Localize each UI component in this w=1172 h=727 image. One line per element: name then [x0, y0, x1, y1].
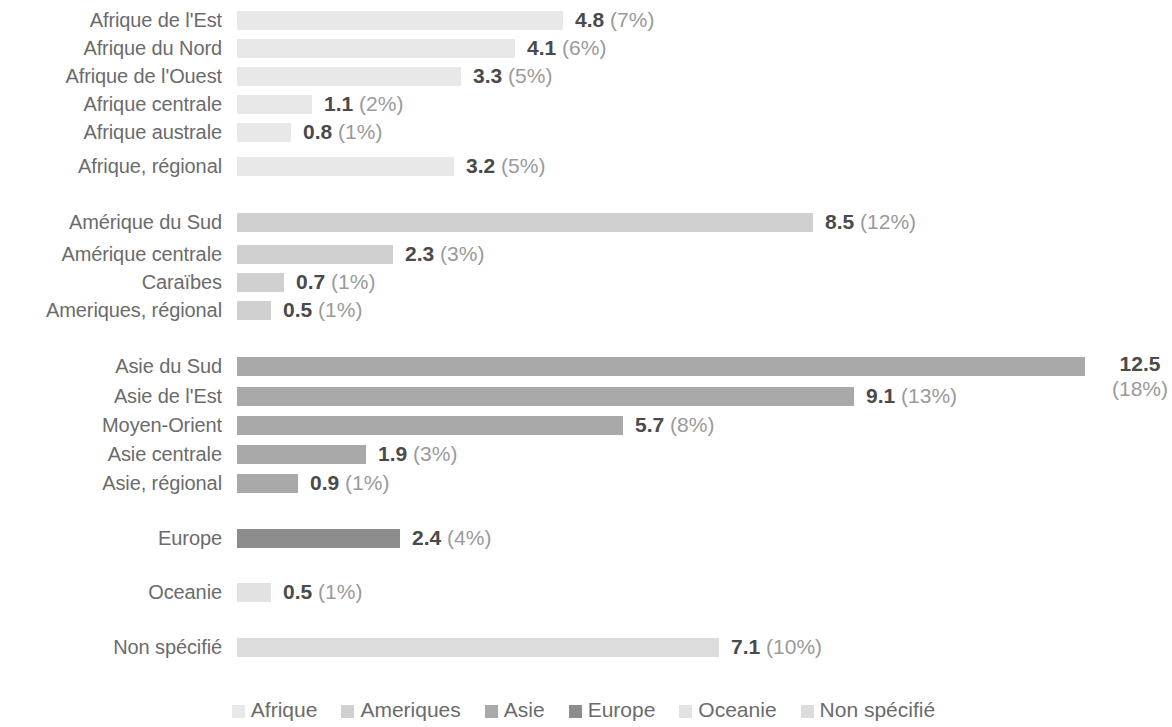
bar	[237, 67, 461, 86]
bar-value-number: 0.8	[303, 120, 332, 143]
legend-swatch-icon	[569, 705, 582, 718]
legend-item[interactable]: Non spécifié	[801, 698, 936, 722]
bar-value-number: 4.1	[527, 36, 556, 59]
bar-value-percent: (10%)	[766, 635, 822, 658]
bar-value-number: 3.3	[473, 64, 502, 87]
bar-row-label: Ameriques, régional	[0, 296, 222, 324]
bar-row-label: Afrique australe	[0, 118, 222, 146]
bar-value-number: 0.5	[283, 580, 312, 603]
bar	[237, 583, 271, 602]
bar-wrapper	[237, 67, 461, 86]
bar-value-label: 9.1 (13%)	[866, 382, 957, 410]
bar-row-label: Amérique centrale	[0, 240, 222, 268]
bar-wrapper	[237, 357, 1085, 376]
bar-value-label: 0.8 (1%)	[303, 118, 382, 146]
legend-item[interactable]: Afrique	[232, 698, 318, 722]
bar	[237, 301, 271, 320]
bar-row: Ameriques, régional0.5 (1%)	[0, 296, 1167, 324]
bar-row-label: Asie du Sud	[0, 352, 222, 380]
legend-item-label: Oceanie	[698, 698, 776, 722]
bar-row-label: Afrique du Nord	[0, 34, 222, 62]
bar-wrapper	[237, 157, 454, 176]
bar-row: Afrique de l'Est4.8 (7%)	[0, 6, 1167, 34]
bar-value-label: 1.9 (3%)	[378, 440, 457, 468]
bar-row: Asie du Sud12.5(18%)	[0, 352, 1167, 380]
bar-value-percent: (1%)	[318, 298, 362, 321]
bar-wrapper	[237, 123, 291, 142]
legend-item[interactable]: Ameriques	[341, 698, 460, 722]
bar-wrapper	[237, 474, 298, 493]
bar-value-percent: (1%)	[331, 270, 375, 293]
bar-wrapper	[237, 213, 813, 232]
bar-row: Asie de l'Est9.1 (13%)	[0, 382, 1167, 410]
legend-swatch-icon	[801, 705, 814, 718]
bar-row: Caraïbes0.7 (1%)	[0, 268, 1167, 296]
bar-wrapper	[237, 583, 271, 602]
bar-wrapper	[237, 273, 284, 292]
bar-row: Moyen-Orient5.7 (8%)	[0, 411, 1167, 439]
bar-value-percent: (3%)	[413, 442, 457, 465]
bar-value-percent: (7%)	[610, 8, 654, 31]
bar-wrapper	[237, 638, 719, 657]
bar-value-percent: (5%)	[501, 154, 545, 177]
bar-row-label: Afrique de l'Est	[0, 6, 222, 34]
bar-value-percent: (5%)	[508, 64, 552, 87]
bar-row-label: Oceanie	[0, 578, 222, 606]
bar	[237, 474, 298, 493]
legend-item-label: Afrique	[251, 698, 318, 722]
bar-value-label: 3.2 (5%)	[466, 152, 545, 180]
legend-swatch-icon	[341, 705, 354, 718]
bar-value-label: 1.1 (2%)	[324, 90, 403, 118]
bar-wrapper	[237, 529, 400, 548]
bar-value-percent: (1%)	[338, 120, 382, 143]
bar-value-label: 0.5 (1%)	[283, 578, 362, 606]
bar-row: Amérique du Sud8.5 (12%)	[0, 208, 1167, 236]
legend-item[interactable]: Europe	[569, 698, 656, 722]
bar-row-label: Afrique de l'Ouest	[0, 62, 222, 90]
bar-value-number: 4.8	[575, 8, 604, 31]
legend-item-label: Non spécifié	[820, 698, 936, 722]
bar-value-percent: (13%)	[901, 384, 957, 407]
bar	[237, 273, 284, 292]
legend-item[interactable]: Asie	[485, 698, 545, 722]
bar-row: Afrique de l'Ouest3.3 (5%)	[0, 62, 1167, 90]
legend-item[interactable]: Oceanie	[679, 698, 776, 722]
bar-value-percent: (12%)	[860, 210, 916, 233]
bar-row-label: Asie, régional	[0, 469, 222, 497]
bar-value-number: 8.5	[825, 210, 854, 233]
legend-item-label: Europe	[588, 698, 656, 722]
bar-wrapper	[237, 387, 854, 406]
bar-value-label: 0.5 (1%)	[283, 296, 362, 324]
bar-row-label: Asie centrale	[0, 440, 222, 468]
bar-row-label: Caraïbes	[0, 268, 222, 296]
bar-value-number: 5.7	[635, 413, 664, 436]
bar-wrapper	[237, 39, 515, 58]
bar	[237, 123, 291, 142]
bar-row-label: Amérique du Sud	[0, 208, 222, 236]
bar-value-label: 7.1 (10%)	[731, 633, 822, 661]
bar-value-number: 12.5	[1097, 351, 1172, 376]
bar-row-label: Europe	[0, 524, 222, 552]
bar-row-label: Moyen-Orient	[0, 411, 222, 439]
bar-value-number: 7.1	[731, 635, 760, 658]
bar-value-percent: (4%)	[447, 526, 491, 549]
bar-wrapper	[237, 245, 393, 264]
bar-value-number: 1.1	[324, 92, 353, 115]
bar-row: Oceanie0.5 (1%)	[0, 578, 1167, 606]
bar-row-label: Afrique, régional	[0, 152, 222, 180]
bar-row: Asie, régional0.9 (1%)	[0, 469, 1167, 497]
bar-value-percent: (6%)	[562, 36, 606, 59]
bar-row: Asie centrale1.9 (3%)	[0, 440, 1167, 468]
bar-value-label: 2.4 (4%)	[412, 524, 491, 552]
chart-legend: AfriqueAmeriquesAsieEuropeOceanieNon spé…	[0, 697, 1167, 722]
bar	[237, 387, 854, 406]
bar-value-number: 0.9	[310, 471, 339, 494]
bar	[237, 416, 623, 435]
bar	[237, 39, 515, 58]
legend-swatch-icon	[485, 705, 498, 718]
bar-value-label: 0.7 (1%)	[296, 268, 375, 296]
bar	[237, 213, 813, 232]
bar	[237, 638, 719, 657]
bar-value-label: 0.9 (1%)	[310, 469, 389, 497]
